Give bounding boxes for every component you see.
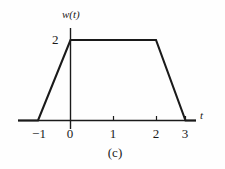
- x-tick-label-2: 2: [149, 127, 163, 140]
- y-tick-label-2: 2: [52, 33, 59, 46]
- figure-caption: (c): [98, 146, 132, 159]
- waveform-trace: [18, 40, 196, 121]
- x-axis-label: t: [200, 110, 203, 121]
- x-tick-label-minus1: −1: [30, 127, 48, 140]
- figure-container: w(t) t 2 −1 0 1 2 3 (c): [0, 0, 225, 169]
- y-axis-label: w(t): [62, 9, 80, 20]
- trapezoid-waveform-plot: [0, 0, 225, 169]
- x-tick-label-3: 3: [178, 127, 192, 140]
- x-tick-label-0: 0: [63, 127, 77, 140]
- x-tick-label-1: 1: [106, 127, 120, 140]
